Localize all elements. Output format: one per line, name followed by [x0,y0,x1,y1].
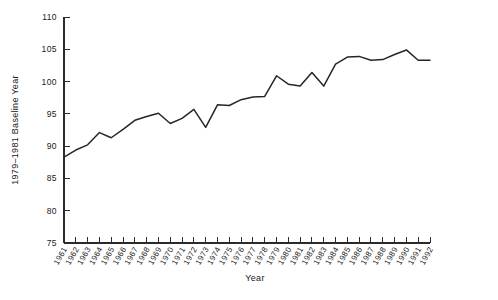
y-tick-label: 95 [47,109,57,119]
x-axis-title: Year [245,273,264,283]
y-tick-label: 80 [47,206,57,216]
y-tick-label: 100 [42,77,57,87]
data-series [64,50,430,157]
y-axis-title: 1979–1981 Baseline Year [10,75,20,185]
line-chart: 1101051009590858075 19611962196319641965… [0,0,498,300]
y-tick-label: 85 [47,173,57,183]
y-tick-label: 105 [42,44,57,54]
data-line-index [64,50,430,157]
y-tick-label: 90 [47,141,57,151]
x-axis: 1961196219631964196519661967196819691970… [52,237,435,266]
y-tick-label: 110 [42,12,57,22]
chart-figure: 1101051009590858075 19611962196319641965… [0,0,498,300]
y-tick-label: 75 [47,238,57,248]
y-axis: 1101051009590858075 [42,12,70,248]
